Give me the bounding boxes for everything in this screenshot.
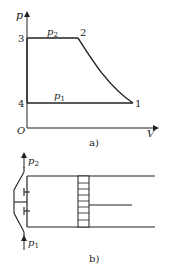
caption-b: b) [89,253,99,264]
outlet-pressure-label: p2 [28,155,39,168]
point-4-label: 4 [18,98,24,109]
caption-a: a) [89,137,99,148]
point-1-label: 1 [135,98,141,109]
process-1-2-compression [78,38,133,103]
p2-line-label: p2 [47,26,58,39]
inlet-pressure-label: p1 [28,237,39,250]
piston [78,176,89,227]
y-axis-label: p [16,9,23,22]
cylinder-schematic: p2 p1 b) [14,155,155,264]
pv-diagram: p V O 3 4 2 1 p2 p1 a) [16,9,156,148]
origin-label: O [17,125,25,136]
compressor-diagram: p V O 3 4 2 1 p2 p1 a) [0,0,170,276]
point-3-label: 3 [18,33,24,44]
point-2-label: 2 [80,27,86,38]
x-axis-label: V [147,128,156,139]
p1-line-label: p1 [54,90,65,103]
